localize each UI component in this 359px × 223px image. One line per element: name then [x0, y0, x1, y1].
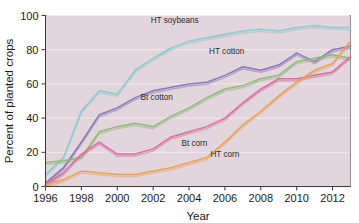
x-axis-title: Year — [186, 210, 209, 222]
x-tick-label: 1998 — [69, 192, 93, 204]
x-tick-label: 2010 — [284, 192, 308, 204]
x-tick-label: 2008 — [249, 192, 273, 204]
y-tick-label: 80 — [26, 44, 38, 56]
x-tick-label: 2006 — [213, 192, 237, 204]
y-tick-label: 40 — [26, 112, 38, 124]
chart-figure: 020406080100 199619982000200220042006200… — [0, 0, 359, 223]
line-chart: 020406080100 199619982000200220042006200… — [0, 0, 359, 223]
x-tick-label: 2004 — [177, 192, 201, 204]
y-tick-label: 100 — [20, 10, 38, 22]
series-label-ht-cotton: HT cotton — [209, 47, 245, 56]
y-tick-label: 20 — [26, 146, 38, 158]
x-tick-label: 2002 — [141, 192, 165, 204]
x-tick-label: 1996 — [33, 192, 57, 204]
y-axis-title: Percent of planted crops — [3, 38, 15, 163]
x-tick-label: 2012 — [320, 192, 344, 204]
series-label-bt-cotton: Bt cotton — [141, 93, 174, 102]
series-label-ht-corn: HT corn — [210, 150, 239, 159]
y-tick-label: 60 — [26, 78, 38, 90]
series-label-bt-corn: Bt corn — [181, 139, 207, 148]
x-tick-label: 2000 — [105, 192, 129, 204]
series-label-ht-soybeans: HT soybeans — [151, 16, 199, 25]
